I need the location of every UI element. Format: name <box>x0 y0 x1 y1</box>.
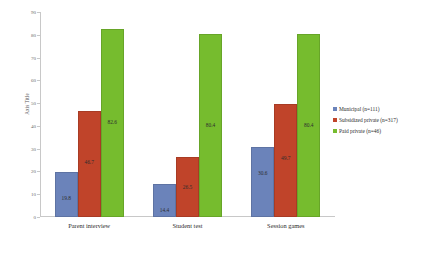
bar-value-label: 19.8 <box>56 195 77 201</box>
bar: 30.6 <box>251 147 274 217</box>
bar: 46.7 <box>78 111 101 217</box>
y-tick-label: 60 <box>31 78 36 83</box>
bar-chart: Axis Title 0102030405060708090 19.846.78… <box>0 0 424 253</box>
legend-swatch-icon <box>333 107 337 111</box>
y-tick-label: 30 <box>31 146 36 151</box>
bar: 26.5 <box>176 157 199 217</box>
bar: 82.6 <box>101 29 124 217</box>
bar-value-label: 82.6 <box>102 119 123 125</box>
bar-value-label: 30.6 <box>252 170 273 176</box>
x-axis-label: Parent interview <box>40 222 138 229</box>
legend-item[interactable]: Subsidized private (n=317) <box>333 117 398 123</box>
bar-value-label: 46.7 <box>79 159 100 165</box>
y-tick-label: 40 <box>31 123 36 128</box>
bar: 19.8 <box>55 172 78 217</box>
legend-item[interactable]: Municipal (n=111) <box>333 106 398 112</box>
plot-area: 0102030405060708090 19.846.782.614.426.5… <box>40 12 335 217</box>
bar-value-label: 49.7 <box>275 155 296 161</box>
legend-label: Subsidized private (n=317) <box>339 117 398 123</box>
legend-swatch-icon <box>333 118 337 122</box>
bar-value-label: 80.4 <box>298 122 319 128</box>
bar-group: 19.846.782.6 <box>40 12 138 217</box>
y-tick-label: 50 <box>31 101 36 106</box>
y-tick-label: 20 <box>31 169 36 174</box>
legend-label: Municipal (n=111) <box>339 106 380 112</box>
bar-value-label: 14.4 <box>154 207 175 213</box>
bar-group: 30.649.780.4 <box>237 12 335 217</box>
y-tick-mark <box>37 217 40 218</box>
y-tick-label: 0 <box>34 215 37 220</box>
y-axis-title: Axis Title <box>24 74 30 134</box>
y-tick-label: 90 <box>31 10 36 15</box>
x-axis-label: Session games <box>237 222 335 229</box>
legend-label: Paid private (n=46) <box>339 128 381 134</box>
bar: 14.4 <box>153 184 176 217</box>
legend-swatch-icon <box>333 129 337 133</box>
bar: 49.7 <box>274 104 297 217</box>
bar: 80.4 <box>199 34 222 217</box>
y-tick-label: 70 <box>31 55 36 60</box>
chart-legend: Municipal (n=111)Subsidized private (n=3… <box>333 106 398 139</box>
bar-value-label: 80.4 <box>200 122 221 128</box>
bar-value-label: 26.5 <box>177 184 198 190</box>
y-tick-label: 80 <box>31 32 36 37</box>
bar-group: 14.426.580.4 <box>138 12 236 217</box>
legend-item[interactable]: Paid private (n=46) <box>333 128 398 134</box>
bar: 80.4 <box>297 34 320 217</box>
x-axis-label: Student test <box>138 222 236 229</box>
y-tick-label: 10 <box>31 192 36 197</box>
